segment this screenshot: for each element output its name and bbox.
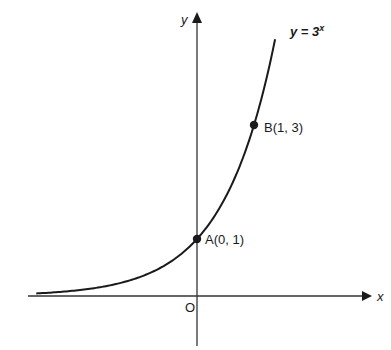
point-b-marker bbox=[250, 121, 258, 129]
function-label-prefix: y = 3 bbox=[290, 24, 319, 39]
point-a-marker bbox=[193, 235, 201, 243]
origin-label: O bbox=[185, 301, 195, 314]
y-axis-arrow-icon bbox=[192, 12, 202, 23]
function-label: y = 3x bbox=[290, 24, 324, 38]
x-axis-label: x bbox=[377, 290, 384, 303]
point-a-label: A(0, 1) bbox=[205, 233, 244, 246]
x-axis-arrow-icon bbox=[362, 291, 372, 301]
y-axis-label: y bbox=[181, 13, 188, 26]
function-label-exponent: x bbox=[319, 23, 324, 33]
chart-canvas bbox=[0, 0, 391, 350]
x-axis bbox=[28, 291, 372, 301]
point-b-label: B(1, 3) bbox=[264, 121, 303, 134]
exponential-curve bbox=[36, 39, 275, 293]
marked-points bbox=[193, 121, 258, 243]
